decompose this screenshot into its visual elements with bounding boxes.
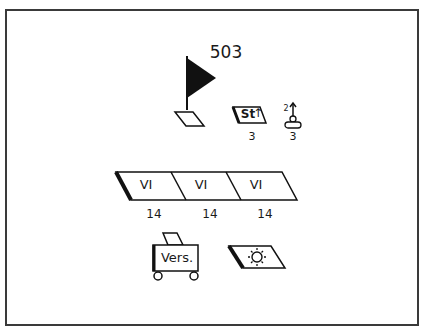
battalion-label: VI (241, 177, 271, 192)
sun-icon (227, 244, 291, 274)
staff-arrow: ↑ (253, 106, 261, 120)
battalion-label: VI (131, 177, 161, 192)
battalion-label: VI (186, 177, 216, 192)
battalion-count: 14 (142, 207, 166, 221)
staff-count: 3 (244, 130, 260, 143)
battalion-count: 14 (253, 207, 277, 221)
signal-superscript: 2 (283, 104, 289, 113)
parallelogram-icon (174, 110, 214, 130)
battalion-count: 14 (198, 207, 222, 221)
signal-count: 3 (285, 130, 301, 143)
supply-label: Vers. (155, 250, 199, 265)
unit-number: 503 (206, 42, 246, 62)
